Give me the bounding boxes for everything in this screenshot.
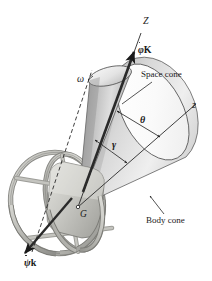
- body-cone-leader-line: [150, 196, 164, 214]
- label-theta: θ: [140, 115, 145, 125]
- label-omega: ω: [77, 74, 84, 84]
- label-mass-center-G: G: [80, 210, 87, 220]
- k-unit-vector: k: [31, 257, 37, 268]
- label-body-cone: Body cone: [146, 216, 185, 225]
- label-psik-vector: ψk: [24, 258, 36, 268]
- K-unit-vector: K: [144, 44, 152, 55]
- label-z-axis: z: [192, 100, 196, 110]
- label-gamma: γ: [112, 140, 116, 150]
- psi-symbol: ψ: [24, 258, 31, 268]
- label-phiK-vector: φK: [138, 45, 152, 55]
- figure-container: Z φK ω Space cone z θ γ G Body cone ψk: [0, 0, 212, 281]
- label-space-cone: Space cone: [141, 70, 182, 79]
- label-Z-axis: Z: [143, 16, 149, 26]
- gyroscope-cone-diagram: [0, 0, 212, 281]
- overdot-icon: [25, 255, 27, 257]
- phi-symbol: φ: [138, 45, 144, 55]
